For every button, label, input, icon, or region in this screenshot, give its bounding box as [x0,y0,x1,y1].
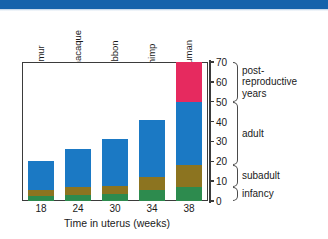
stage-bracket-subadult [233,165,238,187]
y-tick-label-50: 50 [216,96,227,107]
x-tick-label-24: 24 [63,203,93,214]
y-tick-70 [209,61,214,62]
bar-segment-macaque-infancy [65,195,91,201]
bar-chimp [139,120,165,201]
bar-segment-macaque-subadult [65,187,91,195]
y-tick-10 [209,180,214,181]
stage-label-infancy: infancy [242,188,274,200]
top-banner [0,0,328,9]
bar-segment-chimp-infancy [139,190,165,201]
bar-segment-chimp-adult [139,120,165,178]
bar-gibbon [102,139,128,201]
y-tick-20 [209,161,214,162]
y-tick-label-10: 10 [216,176,227,187]
y-tick-label-70: 70 [216,57,227,68]
stage-label-subadult: subadult [242,170,280,182]
bar-segment-human-adult [176,102,202,166]
bar-segment-human-post-reproductive-years [176,62,202,102]
x-tick-label-34: 34 [137,203,167,214]
bar-segment-human-subadult [176,165,202,187]
bar-segment-human-infancy [176,187,202,201]
stage-bracket-post-reproductive-years [233,62,238,102]
bar-segment-gibbon-adult [102,139,128,186]
bar-segment-lemur-adult [28,161,54,190]
y-tick-label-60: 60 [216,76,227,87]
x-tick-label-30: 30 [100,203,130,214]
bar-segment-chimp-subadult [139,177,165,190]
x-tick-label-18: 18 [26,203,56,214]
bar-segment-gibbon-subadult [102,186,128,194]
y-tick-label-0: 0 [216,196,222,207]
bar-macaque [65,149,91,201]
y-tick-label-40: 40 [216,116,227,127]
y-tick-label-30: 30 [216,136,227,147]
chart-figure: lemurmacaquegibbonchimphuman 01020304050… [0,11,328,239]
bar-segment-gibbon-infancy [102,194,128,201]
bar-segment-macaque-adult [65,149,91,187]
bar-human [176,62,202,201]
y-tick-50 [209,101,214,102]
stage-bracket-infancy [233,187,238,201]
x-tick-label-38: 38 [174,203,204,214]
y-tick-40 [209,121,214,122]
stage-label-post-reproductive-years: post- reproductive years [242,65,297,100]
y-tick-60 [209,81,214,82]
x-axis-title: Time in uterus (weeks) [22,217,212,229]
bar-lemur [28,161,54,201]
y-tick-0 [209,200,214,201]
bar-segment-lemur-infancy [28,196,54,201]
bars-layer [22,62,208,201]
y-tick-label-20: 20 [216,156,227,167]
stage-bracket-adult [233,102,238,166]
stage-label-adult: adult [242,128,264,140]
y-tick-30 [209,141,214,142]
